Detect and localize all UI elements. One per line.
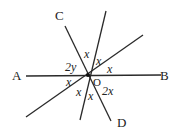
center-point-o (86, 73, 90, 77)
angle-left: x (65, 75, 72, 89)
label-o: O (93, 76, 101, 88)
angle-bottom: x (87, 89, 94, 103)
angle-upper-left: 2y (65, 60, 77, 74)
angle-top: x (83, 47, 90, 61)
label-a: A (12, 68, 22, 83)
label-b: B (160, 68, 169, 83)
angle-lower-right: 2x (102, 84, 114, 98)
angle-lower-left: x (75, 85, 82, 99)
label-d: D (117, 115, 126, 130)
angle-upper-right: x (95, 54, 102, 68)
geometry-diagram: A B C D O x x x 2y x x x 2x (0, 0, 175, 132)
angle-right: x (106, 62, 113, 76)
label-c: C (55, 8, 64, 23)
